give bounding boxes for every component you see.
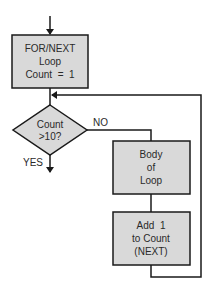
init-line-3: Count = 1 [25,69,75,80]
flowchart: FOR/NEXT Loop Count = 1 Count >10? YES N… [0,0,214,293]
init-box: FOR/NEXT Loop Count = 1 [12,35,88,88]
no-branch-line [87,130,151,141]
init-line-1: FOR/NEXT [25,43,76,54]
yes-label: YES [23,157,43,168]
body-box: Body of Loop [113,141,190,194]
decision-line-2: >10? [39,131,62,142]
no-label: NO [93,117,108,128]
decision-diamond: Count >10? [13,105,87,155]
increment-line-3: (NEXT) [134,246,167,257]
increment-box: Add 1 to Count (NEXT) [113,212,190,265]
body-line-3: Loop [140,175,163,186]
body-line-2: of [147,162,156,173]
decision-line-1: Count [37,119,64,130]
increment-line-1: Add 1 [137,220,166,231]
body-line-1: Body [140,149,163,160]
increment-line-2: to Count [132,233,170,244]
init-line-2: Loop [39,56,62,67]
